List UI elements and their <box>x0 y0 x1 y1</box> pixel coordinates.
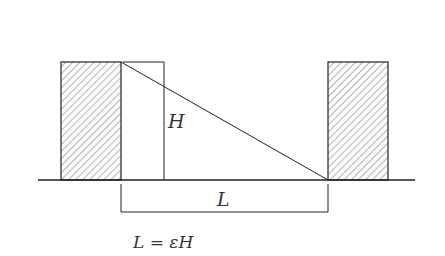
diagram-canvas: H L L = εH <box>0 0 445 256</box>
right-building <box>328 62 388 180</box>
height-dimension <box>123 62 164 180</box>
formula-label: L = εH <box>132 232 194 252</box>
height-label: H <box>167 110 185 132</box>
left-building <box>61 62 121 180</box>
length-label: L <box>216 188 230 210</box>
diagonal-line <box>121 62 328 180</box>
